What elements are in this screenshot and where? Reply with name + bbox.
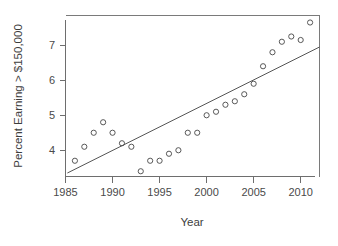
data-point	[213, 109, 218, 114]
regression-trend-line	[67, 47, 319, 173]
data-point	[82, 144, 87, 149]
data-point	[138, 169, 143, 174]
data-point	[101, 120, 106, 125]
y-axis-tick-labels: 4567	[49, 39, 55, 156]
y-tick-label: 5	[49, 109, 55, 121]
y-tick-label: 6	[49, 74, 55, 86]
x-tick-label: 1995	[147, 186, 171, 198]
data-point	[260, 64, 265, 69]
data-point	[204, 113, 209, 118]
y-tick-label: 7	[49, 39, 55, 51]
data-point	[223, 102, 228, 107]
data-point	[195, 130, 200, 135]
scatter-plot-figure: 4567 198519901995200020052010 Year Perce…	[0, 0, 338, 246]
y-axis-ticks	[60, 45, 66, 150]
y-axis: 4567	[49, 20, 66, 177]
x-axis-ticks	[66, 177, 301, 183]
data-point	[110, 130, 115, 135]
x-tick-label: 2010	[288, 186, 312, 198]
data-point	[270, 50, 275, 55]
x-axis-tick-labels: 198519901995200020052010	[53, 186, 313, 198]
data-point	[166, 151, 171, 156]
plot-canvas: 4567 198519901995200020052010 Year Perce…	[0, 0, 338, 246]
data-point	[289, 34, 294, 39]
data-point	[72, 158, 77, 163]
x-tick-label: 2000	[194, 186, 218, 198]
data-point	[129, 144, 134, 149]
x-axis-title: Year	[180, 216, 203, 228]
data-point	[298, 37, 303, 42]
data-point	[307, 20, 312, 25]
x-tick-label: 1985	[53, 186, 77, 198]
data-point	[157, 158, 162, 163]
data-point	[185, 130, 190, 135]
x-tick-label: 1990	[100, 186, 124, 198]
data-point	[242, 92, 247, 97]
data-point	[119, 141, 124, 146]
data-point	[176, 148, 181, 153]
data-point	[251, 81, 256, 86]
data-point	[232, 99, 237, 104]
data-point	[148, 158, 153, 163]
data-points	[72, 20, 312, 174]
x-axis: 198519901995200020052010	[53, 177, 315, 199]
y-tick-label: 4	[49, 144, 55, 156]
data-point	[279, 39, 284, 44]
x-tick-label: 2005	[241, 186, 265, 198]
data-point	[91, 130, 96, 135]
y-axis-title: Percent Earning > $150,000	[12, 24, 24, 168]
regression-line	[67, 47, 319, 173]
